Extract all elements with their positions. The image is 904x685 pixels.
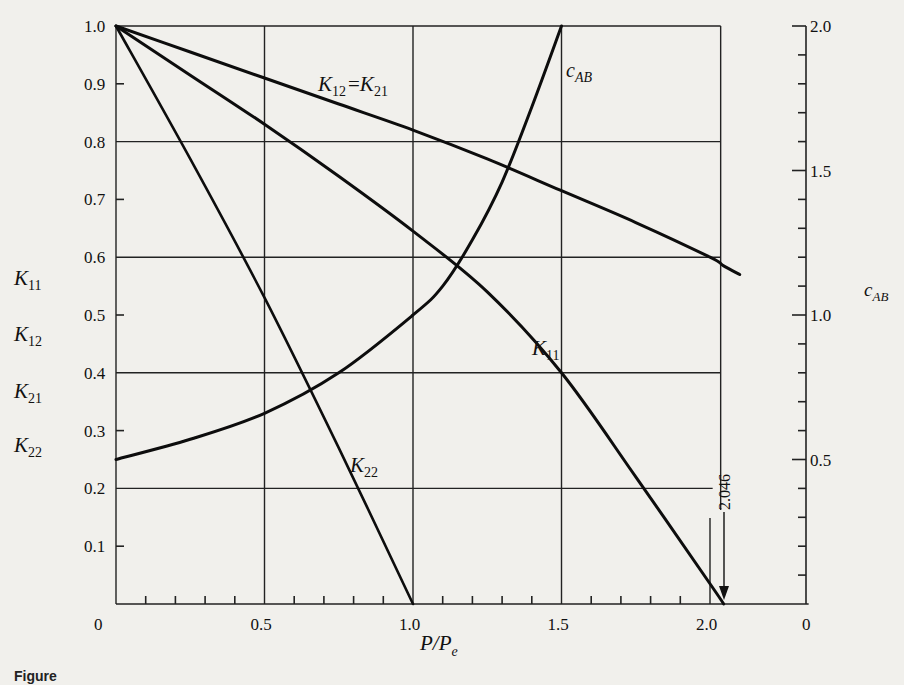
annotation-2046-text: 2.046 xyxy=(716,474,733,510)
label-k22: K22 xyxy=(349,453,378,480)
y-tick-label: 0.2 xyxy=(84,479,105,498)
axis-label-k11: K11 xyxy=(13,266,42,293)
y-tick-label: 0.1 xyxy=(84,537,105,556)
grid xyxy=(116,26,809,604)
y-tick-label: 0.3 xyxy=(84,422,105,441)
x-tick-label: 0.5 xyxy=(251,615,272,634)
right-tick-label: 1.5 xyxy=(810,162,831,181)
label-k11: K11 xyxy=(531,336,560,363)
axis-ticks xyxy=(116,26,806,604)
x-tick-label: 0 xyxy=(94,615,103,634)
x-tick-label: 1.5 xyxy=(548,615,569,634)
x-axis-label: P/Pe xyxy=(419,631,458,659)
right-tick-label: 0.5 xyxy=(810,451,831,470)
y-tick-label: 0.9 xyxy=(84,75,105,94)
right-tick-label: 0 xyxy=(802,615,811,634)
axis-label-k22: K22 xyxy=(13,433,42,460)
right-tick-label: 2.0 xyxy=(810,17,831,36)
x-tick-label: 1.0 xyxy=(399,615,420,634)
x-tick-label: 2.0 xyxy=(696,615,717,634)
figure-caption: Figure xyxy=(14,668,57,684)
right-tick-label: 1.0 xyxy=(810,306,831,325)
y-tick-label: 0.7 xyxy=(84,190,106,209)
y-tick-label: 0.5 xyxy=(84,306,105,325)
axis-label-k12: K12 xyxy=(13,322,42,349)
axis-label-cab: cAB xyxy=(864,279,888,304)
curves xyxy=(116,26,740,604)
axis-label-k21: K21 xyxy=(13,379,42,406)
y-tick-label: 0.8 xyxy=(84,133,105,152)
y-tick-label: 0.6 xyxy=(84,248,105,267)
label-cab-curve: cAB xyxy=(566,59,592,85)
chart: 0.10.20.30.40.50.60.70.80.91.000.51.01.5… xyxy=(0,0,904,685)
curve-k12-k21 xyxy=(116,26,740,275)
y-tick-label: 1.0 xyxy=(84,17,105,36)
label-k12-equals-k21: K12=K21 xyxy=(317,72,388,99)
annotation-2046: 2.046 xyxy=(716,474,733,600)
tick-labels: 0.10.20.30.40.50.60.70.80.91.000.51.01.5… xyxy=(84,17,831,634)
y-tick-label: 0.4 xyxy=(84,364,106,383)
curve-k11 xyxy=(116,26,724,604)
